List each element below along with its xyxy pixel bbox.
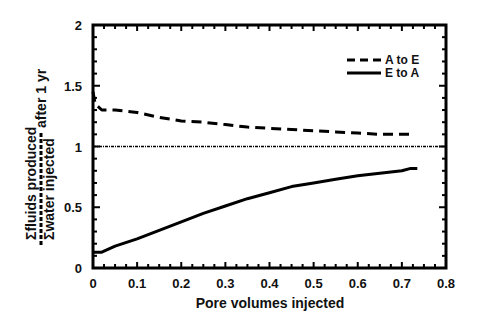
x-tick-label: 0.3 xyxy=(216,276,234,291)
x-tick-label: 0.8 xyxy=(437,276,455,291)
x-axis-label: Pore volumes injected xyxy=(196,295,345,311)
x-tick-label: 0.7 xyxy=(393,276,411,291)
x-tick-label: 0.1 xyxy=(128,276,146,291)
legend-label-a-to-e: A to E xyxy=(385,53,419,67)
series-line-e-to-a xyxy=(93,168,417,252)
x-tick-label: 0.5 xyxy=(305,276,323,291)
x-tick-label: 0.4 xyxy=(260,276,279,291)
y-label-numerator: Σfluids produced xyxy=(23,127,39,240)
legend-label-e-to-a: E to A xyxy=(385,66,420,80)
y-tick-label: 2 xyxy=(75,18,82,33)
y-tick-label: 1 xyxy=(75,140,82,155)
y-axis-label: Σfluids produced Σwater injected after 1… xyxy=(23,68,57,245)
x-tick-label: 0.2 xyxy=(172,276,190,291)
y-tick-label: 0 xyxy=(75,261,82,276)
y-tick-label: 1.5 xyxy=(64,79,82,94)
line-chart: 00.10.20.30.40.50.60.70.800.511.52 A to … xyxy=(0,0,480,333)
x-tick-label: 0 xyxy=(89,276,96,291)
y-label-denominator: Σwater injected xyxy=(41,138,57,240)
y-tick-label: 0.5 xyxy=(64,200,82,215)
x-tick-label: 0.6 xyxy=(349,276,367,291)
y-label-suffix: after 1 yr xyxy=(33,68,49,128)
series-line-a-to-e xyxy=(93,92,411,135)
data-lines xyxy=(93,92,446,252)
legend: A to E E to A xyxy=(347,53,420,80)
